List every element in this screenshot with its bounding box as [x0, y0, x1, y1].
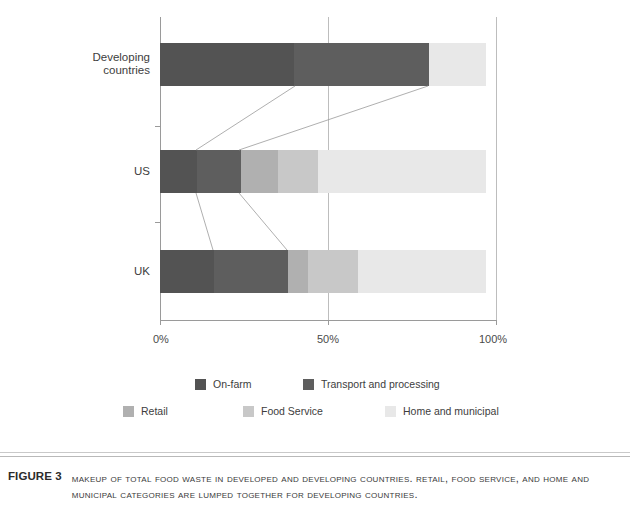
caption-rule-top — [0, 452, 630, 453]
bar-segment — [278, 150, 318, 193]
figure-caption-label: FIGURE 3 — [8, 470, 62, 482]
figure-caption-text: Makeup of total food waste in developed … — [72, 470, 622, 502]
chart-legend: On-farm Transport and processing Retail … — [0, 374, 630, 430]
bar-segment — [318, 150, 486, 193]
legend-swatch-on-farm — [195, 379, 206, 390]
legend-label-food-service: Food Service — [261, 405, 323, 417]
y-tick-1 — [155, 126, 161, 127]
gridline-100-percent — [496, 17, 497, 320]
bar-segment — [294, 43, 428, 86]
y-tick-2 — [155, 222, 161, 223]
legend-item-home-and-municipal[interactable]: Home and municipal — [385, 405, 499, 417]
legend-label-home-and-municipal: Home and municipal — [403, 405, 499, 417]
legend-swatch-transport-and-processing — [303, 379, 314, 390]
x-tick-0 — [160, 320, 161, 325]
caption-divider — [0, 452, 630, 462]
bar-segment — [160, 150, 197, 193]
legend-swatch-food-service — [243, 406, 254, 417]
bar-segment — [429, 43, 486, 86]
bar-segment — [214, 250, 288, 293]
x-tick-label-100: 100% — [479, 333, 507, 345]
bar-segment — [160, 43, 294, 86]
legend-item-retail[interactable]: Retail — [123, 405, 168, 417]
bar-us — [160, 150, 486, 193]
bar-segment — [197, 150, 241, 193]
bar-segment — [160, 250, 214, 293]
legend-label-on-farm: On-farm — [213, 378, 252, 390]
bar-segment — [241, 150, 278, 193]
x-tick-50 — [328, 320, 329, 325]
bar-developing-countries — [160, 43, 486, 86]
bar-segment — [288, 250, 308, 293]
x-tick-label-0: 0% — [153, 333, 169, 345]
legend-swatch-home-and-municipal — [385, 406, 396, 417]
legend-item-on-farm[interactable]: On-farm — [195, 378, 252, 390]
legend-swatch-retail — [123, 406, 134, 417]
bar-segment — [358, 250, 486, 293]
y-label-developing-countries: Developing countries — [40, 51, 150, 77]
legend-label-transport-and-processing: Transport and processing — [321, 378, 440, 390]
caption-rule-bottom — [0, 456, 630, 457]
x-tick-100 — [496, 320, 497, 325]
legend-item-food-service[interactable]: Food Service — [243, 405, 323, 417]
y-label-us: US — [40, 165, 150, 178]
legend-label-retail: Retail — [141, 405, 168, 417]
x-tick-label-50: 50% — [317, 333, 339, 345]
legend-item-transport-and-processing[interactable]: Transport and processing — [303, 378, 440, 390]
bar-segment — [308, 250, 358, 293]
figure-caption: FIGURE 3 Makeup of total food waste in d… — [8, 470, 622, 502]
bar-uk — [160, 250, 486, 293]
y-label-uk: UK — [40, 265, 150, 278]
